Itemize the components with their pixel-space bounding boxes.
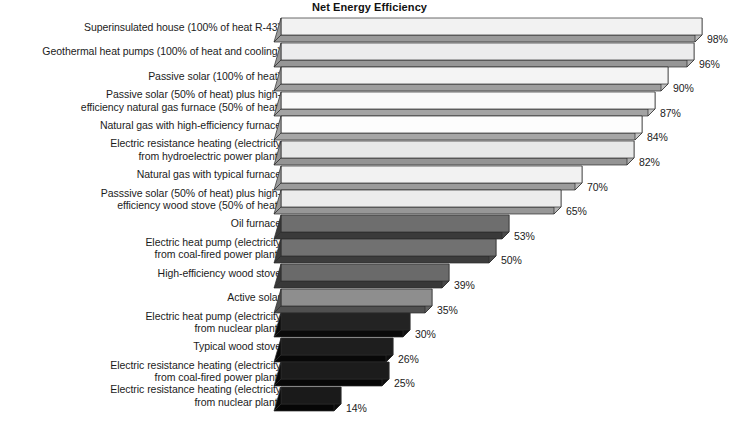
bar-value-label: 50% [501,254,522,266]
bar-wrapper [274,18,697,44]
bar-front-face [281,141,634,158]
bar-wrapper [274,338,388,364]
bar-bottom-face [274,379,389,386]
bar-front-face [281,362,389,379]
bar-wrapper [274,166,577,192]
bar-wrapper [274,387,336,413]
bar-3d [274,67,663,93]
bar-wrapper [274,289,427,315]
chart-container: Net Energy Efficiency Superinsulated hou… [0,0,739,421]
bar-wrapper [274,190,556,216]
bar-value-label: 65% [566,205,587,217]
bar-3d [274,362,384,388]
bar-category-label: Electric resistance heating (electricity… [110,137,281,162]
bar-category-label: Electric heat pump (electricity from coa… [145,236,281,261]
bar-3d [274,166,577,192]
bar-wrapper [274,264,444,290]
bar-wrapper [274,92,650,118]
bar-wrapper [274,141,629,167]
bar-bottom-face [274,330,410,337]
bar-front-face [281,116,642,133]
bar-category-label: High-efficiency wood stove [158,267,281,280]
bar-bottom-face [274,35,702,42]
bar-value-label: 98% [707,33,728,45]
bar-front-face [281,313,410,330]
bar-3d [274,387,336,413]
bar-front-face [281,18,702,35]
bar-category-label: Natural gas with high-efficiency furnace [100,119,281,132]
bar-3d [274,239,491,265]
bar-3d [274,313,405,339]
bar-front-face [281,289,432,306]
bar-category-label: Passive solar (100% of heat) [148,70,281,83]
bar-bottom-face [274,404,341,411]
bar-value-label: 90% [673,82,694,94]
bar-3d [274,116,637,142]
bar-value-label: 84% [647,131,668,143]
bar-3d [274,92,650,118]
bar-3d [274,141,629,167]
bar-bottom-face [274,256,496,263]
bar-front-face [281,67,668,84]
bar-wrapper [274,313,405,339]
bar-bottom-face [274,84,668,91]
bar-bottom-face [274,232,509,239]
bar-wrapper [274,67,663,93]
bar-3d [274,215,504,241]
bar-category-label: Superinsulated house (100% of heat R-43) [84,21,281,34]
bar-value-label: 96% [699,58,720,70]
bar-category-label: Natural gas with typical furnace [137,168,281,181]
bar-value-label: 26% [398,353,419,365]
bar-wrapper [274,362,384,388]
bar-category-label: Electric resistance heating (electricity… [110,359,281,384]
bar-3d [274,190,556,216]
bar-bottom-face [274,158,634,165]
bar-bottom-face [274,60,694,67]
bar-3d [274,338,388,364]
bar-value-label: 87% [660,107,681,119]
bar-front-face [281,215,509,232]
bar-front-face [281,387,341,404]
bar-front-face [281,166,582,183]
bar-bottom-face [274,109,655,116]
bar-value-label: 82% [639,156,660,168]
bar-front-face [281,92,655,109]
bar-wrapper [274,43,689,69]
bar-wrapper [274,239,491,265]
bar-bottom-face [274,207,561,214]
bar-front-face [281,264,449,281]
bar-front-face [281,43,694,60]
bar-front-face [281,338,393,355]
bar-wrapper [274,116,637,142]
bar-front-face [281,239,496,256]
bar-value-label: 53% [514,230,535,242]
bar-bottom-face [274,306,432,313]
bar-category-label: Passive solar (50% of heat) plus high- e… [81,88,281,113]
bar-value-label: 39% [454,279,475,291]
bar-value-label: 25% [394,377,415,389]
bar-value-label: 14% [346,402,367,414]
bar-wrapper [274,215,504,241]
bar-front-face [281,190,561,207]
bar-category-label: Typical wood stove [193,340,281,353]
bar-bottom-face [274,355,393,362]
bar-3d [274,18,697,44]
bar-category-label: Active solar [227,291,281,304]
bar-category-label: Geothermal heat pumps (100% of heat and … [42,45,281,58]
bar-3d [274,43,689,69]
bar-category-label: Passsive solar (50% of heat) plus high- … [101,187,281,212]
bar-bottom-face [274,281,449,288]
bar-value-label: 70% [587,181,608,193]
bar-category-label: Electric resistance heating (electricity… [110,383,281,408]
bar-3d [274,289,427,315]
bar-3d [274,264,444,290]
bar-value-label: 35% [437,304,458,316]
bar-value-label: 30% [415,328,436,340]
bar-bottom-face [274,183,582,190]
bar-bottom-face [274,133,642,140]
bar-chart-plot-area: Superinsulated house (100% of heat R-43)… [0,0,739,421]
bar-category-label: Electric heat pump (electricity from nuc… [145,310,281,335]
